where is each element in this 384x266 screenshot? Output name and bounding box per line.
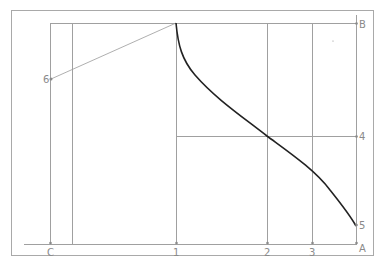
label-4: 4 bbox=[359, 131, 365, 142]
point-3-marker bbox=[311, 242, 314, 245]
main-curve bbox=[176, 23, 356, 226]
point-2-marker bbox=[266, 242, 269, 245]
label-a: A bbox=[359, 243, 366, 254]
point-b-marker bbox=[355, 22, 358, 25]
point-1-marker bbox=[175, 242, 178, 245]
label-c: C bbox=[47, 247, 54, 258]
point-5-marker bbox=[355, 224, 358, 227]
line-6-to-1 bbox=[51, 23, 176, 79]
point-6-marker bbox=[50, 78, 53, 81]
label-5: 5 bbox=[359, 220, 365, 231]
point-4-marker bbox=[355, 135, 358, 138]
label-3: 3 bbox=[309, 247, 315, 258]
construction-diagram: 6 C 1 2 3 A B 4 5 bbox=[0, 0, 384, 266]
point-a-marker bbox=[355, 242, 358, 245]
label-2: 2 bbox=[264, 247, 270, 258]
outer-frame bbox=[12, 11, 374, 256]
label-6: 6 bbox=[43, 74, 49, 85]
label-b: B bbox=[359, 19, 366, 30]
label-1: 1 bbox=[173, 247, 179, 258]
point-c-marker bbox=[49, 242, 52, 245]
stray-dot bbox=[332, 40, 333, 41]
